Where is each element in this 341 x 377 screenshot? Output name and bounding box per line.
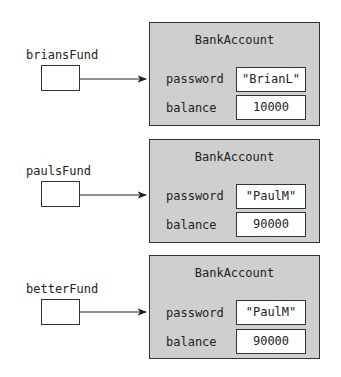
field-name: balance	[166, 335, 217, 349]
field-value: "PaulM"	[236, 300, 306, 325]
reference-box	[41, 181, 80, 207]
object-box: BankAccount password "PaulM" balance 900…	[149, 255, 320, 359]
class-name: BankAccount	[150, 266, 319, 280]
field-name: balance	[166, 218, 217, 232]
field-name: password	[166, 72, 224, 86]
field-value: 10000	[236, 95, 306, 120]
object-box: BankAccount password "BrianL" balance 10…	[149, 22, 320, 126]
variable-label: paulsFund	[26, 164, 91, 178]
variable-label: betterFund	[26, 282, 98, 296]
variable-label: briansFund	[26, 48, 98, 62]
field-value: "PaulM"	[236, 184, 306, 209]
field-value: 90000	[236, 212, 306, 237]
reference-box	[41, 299, 80, 325]
field-value: 90000	[236, 329, 306, 354]
class-name: BankAccount	[150, 150, 319, 164]
field-name: password	[166, 189, 224, 203]
field-name: balance	[166, 101, 217, 115]
object-box: BankAccount password "PaulM" balance 900…	[149, 139, 320, 243]
field-value: "BrianL"	[236, 67, 306, 92]
class-name: BankAccount	[150, 33, 319, 47]
field-name: password	[166, 306, 224, 320]
reference-box	[41, 65, 80, 91]
